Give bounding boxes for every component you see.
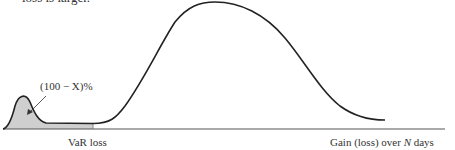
x-axis-label: Gain (loss) over N days [330,137,434,148]
partial-caption-text: loss is larger. [22,0,90,4]
var-loss-label: VaR loss [68,137,107,148]
x-axis-label-suffix: days [411,136,434,148]
distribution-chart [0,0,455,150]
distribution-curve [3,2,385,129]
tail-percent-label: (100 − X)% [40,81,93,92]
x-axis-label-prefix: Gain (loss) over [330,136,404,148]
x-axis-label-n: N [404,136,411,148]
